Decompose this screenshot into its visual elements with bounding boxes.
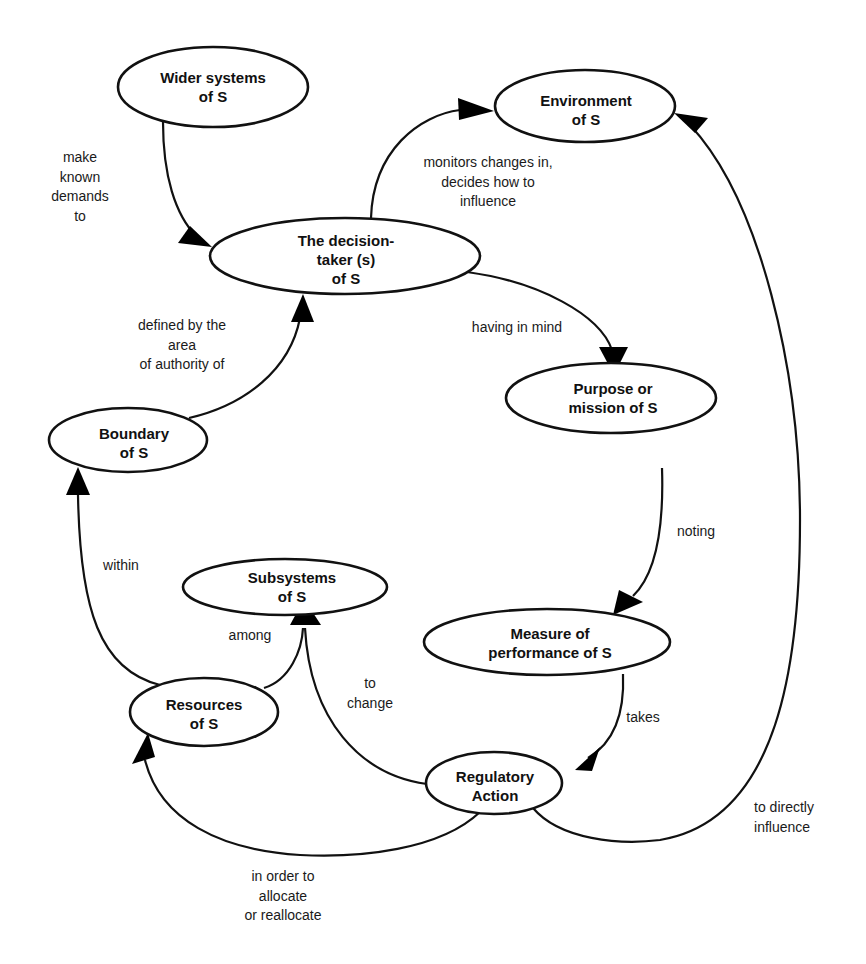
arrowhead-icon xyxy=(132,733,155,764)
edge-label-having-in-mind: having in mind xyxy=(472,318,562,338)
node-label-wider-systems: Wider systems of S xyxy=(160,68,266,106)
node-label-boundary: Boundary of S xyxy=(99,424,169,462)
edge-wider-to-decision xyxy=(163,122,197,237)
edge-resources-to-boundary xyxy=(78,495,160,685)
node-label-subsystems: Subsystems of S xyxy=(248,568,336,606)
arrowhead-icon xyxy=(291,294,314,322)
node-label-environment: Environment of S xyxy=(540,91,632,129)
arrowhead-icon xyxy=(66,467,90,495)
edge-regulatory-to-environment xyxy=(533,125,800,842)
arrowhead-icon xyxy=(575,747,600,771)
edge-label-noting: noting xyxy=(677,522,715,542)
arrowhead-icon xyxy=(178,226,212,247)
edge-measure-to-regulatory xyxy=(588,674,623,758)
diagram-canvas xyxy=(0,0,866,964)
arrowhead-icon xyxy=(674,113,708,133)
edge-label-takes: takes xyxy=(626,708,659,728)
node-label-purpose: Purpose or mission of S xyxy=(568,379,657,417)
edge-label-monitors-changes: monitors changes in, decides how to infl… xyxy=(423,153,552,212)
node-label-regulatory-action: Regulatory Action xyxy=(456,767,534,805)
edge-label-make-known-demands: make known demands to xyxy=(51,148,109,226)
node-label-resources: Resources of S xyxy=(166,695,243,733)
edge-label-allocate: in order to allocate or reallocate xyxy=(244,867,321,926)
edge-label-to-change: to change xyxy=(347,674,393,713)
arrowhead-icon xyxy=(458,98,494,120)
edge-purpose-to-measure xyxy=(633,468,662,596)
edge-label-among: among xyxy=(229,626,272,646)
edge-label-directly-influence: to directly influence xyxy=(754,798,814,837)
node-label-measure: Measure of performance of S xyxy=(488,624,611,662)
arrowhead-icon xyxy=(613,590,643,615)
edge-label-defined-by: defined by the area of authority of xyxy=(138,316,226,375)
node-label-decision-taker: The decision- taker (s) of S xyxy=(298,231,395,288)
edge-label-within: within xyxy=(103,556,139,576)
edge-decision-to-purpose xyxy=(467,272,612,350)
